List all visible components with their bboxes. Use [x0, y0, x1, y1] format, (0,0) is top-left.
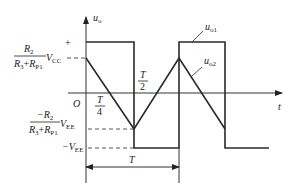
- lower-threshold-label: −R2 R3+RP1 VEE: [28, 109, 75, 137]
- svg-text:R3+RP1: R3+RP1: [13, 58, 43, 71]
- svg-text:T: T: [140, 69, 147, 80]
- svg-text:R2: R2: [23, 43, 34, 56]
- origin-label: O: [73, 98, 80, 109]
- quarter-period-label: T 4: [95, 94, 105, 117]
- svg-text:VCC: VCC: [46, 52, 62, 65]
- uo2-leader: [192, 67, 202, 76]
- svg-text:R3+RP1: R3+RP1: [28, 124, 58, 137]
- x-axis-label: t: [278, 101, 281, 112]
- square-wave-uo1: [86, 42, 269, 148]
- neg-supply-label: −VEE: [62, 141, 83, 154]
- period-label: T: [129, 154, 136, 165]
- svg-text:2: 2: [140, 81, 145, 92]
- waveform-diagram: uo t O uo1 uo2 + R2 R3+RP1 VCC −R2 R3+RP…: [0, 0, 292, 195]
- uo1-leader: [192, 31, 203, 42]
- upper-threshold-label: R2 R3+RP1 VCC: [13, 43, 62, 71]
- uo2-label: uo2: [204, 55, 217, 68]
- svg-text:VEE: VEE: [60, 118, 75, 131]
- uo1-label: uo1: [205, 21, 218, 34]
- svg-text:4: 4: [97, 106, 102, 117]
- plus-level-label: +: [65, 37, 71, 48]
- svg-text:T: T: [97, 94, 104, 105]
- half-period-label: T 2: [138, 69, 148, 92]
- y-axis-label: uo: [93, 12, 102, 25]
- svg-text:−R2: −R2: [37, 109, 54, 122]
